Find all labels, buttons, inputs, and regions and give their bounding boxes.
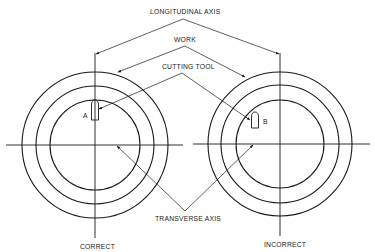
leader-longitudinal-right	[183, 19, 279, 54]
tool-label-a: A	[83, 112, 88, 119]
label-longitudinal-axis: LONGITUDINAL AXIS	[150, 8, 221, 15]
leader-transverse-right	[185, 145, 253, 211]
cutting-tool-b-icon	[252, 112, 259, 128]
tool-label-b: B	[263, 118, 268, 125]
label-work: WORK	[174, 36, 196, 43]
label-transverse-axis: TRANSVERSE AXIS	[155, 215, 221, 222]
leader-transverse-left	[117, 146, 185, 211]
label-cutting-tool: CUTTING TOOL	[162, 63, 215, 70]
caption-correct: CORRECT	[80, 243, 115, 250]
leader-work-right	[185, 46, 245, 77]
tool-alignment-diagram: A CORRECT B INCORRECT LONGITUDINAL AXIS …	[0, 0, 375, 252]
leader-cutting-tool-right	[182, 73, 250, 120]
leader-cutting-tool-left	[99, 73, 182, 109]
caption-incorrect: INCORRECT	[264, 241, 306, 248]
leader-longitudinal-left	[96, 19, 183, 54]
